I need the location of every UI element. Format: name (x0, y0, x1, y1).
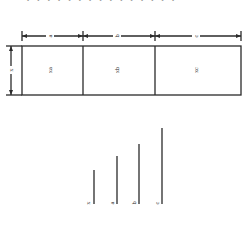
segment-label-b: b (131, 201, 137, 204)
area-label-xb: xb (114, 67, 120, 73)
dimension-label-c: c (193, 34, 199, 37)
dimension-label-a: a (47, 34, 53, 37)
outer-rectangle (22, 46, 241, 95)
segment-label-c: c (154, 201, 160, 204)
top-dimension-line (22, 31, 241, 41)
segment-label-x: x (85, 201, 91, 204)
dimension-label-b: b (114, 34, 120, 37)
distributive-area-diagram: a b c x xa xb xc x a b c (0, 0, 249, 240)
area-label-xc: xc (193, 67, 199, 73)
dimension-label-x: x (8, 68, 14, 71)
area-label-xa: xa (47, 67, 53, 73)
segment-label-a: a (109, 201, 115, 204)
